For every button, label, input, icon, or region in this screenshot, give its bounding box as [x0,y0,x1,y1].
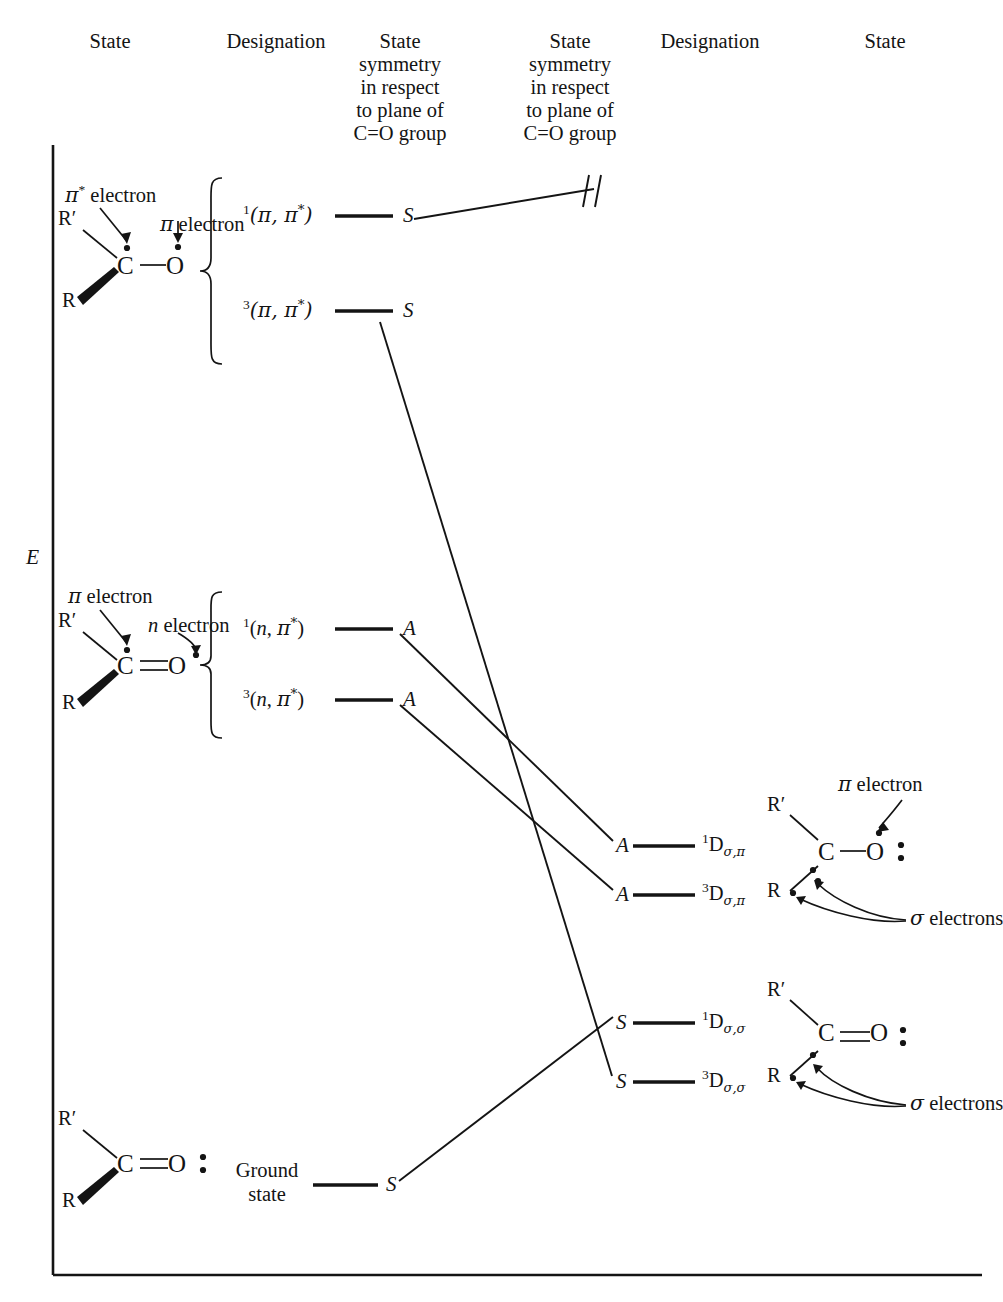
ground-state-line-2: state [228,1182,306,1206]
symmetry-label-d-sigma-sigma-triplet: S [616,1069,627,1094]
multiplicity: 3 [702,1067,709,1082]
bond-rprime-c [83,632,117,660]
structure-d-sigma-sigma-graphics [790,1000,906,1106]
bond-rprime-c [790,815,818,840]
orbital-term: (π, π*) [250,203,313,227]
bond-rprime-c [83,1130,117,1158]
multiplicity: 3 [702,880,709,895]
structure-d-sigma-pi-graphics [790,800,906,921]
multiplicity: 1 [243,615,250,630]
pistar-symbol: π* [277,616,297,640]
structure-label-r: R [767,880,781,901]
electron-dot-pistar [124,245,130,251]
designation-subscript: σ,π [724,844,746,859]
structure-atom-o: O [166,252,184,280]
ground-state-line-1: Ground [228,1158,306,1182]
multiplicity: 1 [702,1008,709,1023]
structure-atom-o: O [168,652,186,680]
bond-r-c-wedge [77,669,119,707]
pi-symbol: π [65,183,78,207]
structure-atom-c: C [117,652,134,680]
multiplicity: 3 [243,686,250,701]
sigma-electron-dot-r [790,890,796,896]
sigma-electron-dot-c [810,1052,816,1058]
level-label-pipi-triplet: 3(π, π*) [243,296,312,322]
designation-label-d-sigma-pi-singlet: 1Dσ,π [702,831,745,859]
structure-label-rprime: R′ [58,610,76,631]
annotation-pistar-electron: π* electron [65,182,156,207]
pi-symbol: π [68,584,81,608]
annotation-pi-electron: π electron [68,584,153,608]
sigma-symbol: σ [910,1091,924,1115]
structure-label-rprime: R′ [767,794,785,815]
annotation-arrow-sigma-1 [817,1068,906,1105]
structure-atom-o: O [866,838,884,866]
designation-label-d-sigma-pi-triplet: 3Dσ,π [702,880,745,908]
pi-symbol: π [160,212,173,236]
structure-atom-o: O [870,1019,888,1047]
symmetry-label-npi-triplet: A [403,687,416,712]
barrier-slash-2-icon [595,175,601,207]
brace-icon [196,176,236,366]
structure-ground-graphics [77,1130,206,1205]
structure-label-rprime: R′ [58,208,76,229]
lone-pair-dot-lower [200,1167,206,1173]
structure-label-rprime: R′ [767,979,785,1000]
designation-label-d-sigma-sigma-singlet: 1Dσ,σ [702,1008,745,1036]
orbital-term: (π, π*) [250,298,313,322]
designation-letter: D [709,833,724,855]
brace-pipi-group [196,176,236,366]
symmetry-label-ground-state: S [386,1172,397,1197]
sigma-electron-dot-c [810,867,816,873]
symmetry-label-d-sigma-sigma-singlet: S [616,1010,627,1035]
correlation-line-ground-to-dss-singlet [399,1017,613,1181]
structure-atom-c: C [117,1150,134,1178]
designation-letter: D [709,882,724,904]
lone-pair-dot-lower [898,855,904,861]
sigma-electron-dot-r [790,1075,796,1081]
bond-rprime-c [790,1000,818,1025]
lone-pair-dot-upper [200,1154,206,1160]
annotation-sigma-electrons: σ electrons [910,906,1003,930]
multiplicity: 3 [243,297,250,312]
designation-subscript: σ,σ [724,1021,746,1036]
structure-atom-o: O [168,1150,186,1178]
annotation-arrow-sigma-1 [818,884,906,920]
designation-label-d-sigma-sigma-triplet: 3Dσ,σ [702,1067,745,1095]
structure-atom-c: C [117,252,134,280]
lone-pair-dot-upper [898,842,904,848]
annotation-arrowhead-pistar [121,232,131,244]
correlation-line-npi-singlet-to-dsp-singlet [400,634,613,841]
structure-label-r: R [767,1065,781,1086]
annotation-sigma-electrons: σ electrons [910,1091,1003,1115]
bond-rprime-c [83,230,117,258]
symmetry-label-npi-singlet: A [403,616,416,641]
annotation-pi-electron: π electron [838,772,923,796]
designation-subscript: σ,π [724,893,746,908]
symmetry-label-pipi-singlet: S [403,203,414,228]
structure-atom-c: C [818,1019,835,1047]
designation-subscript: σ,σ [724,1080,746,1095]
structure-label-rprime: R′ [58,1108,76,1129]
n-symbol: n [257,688,267,710]
bond-r-c-wedge [77,267,119,305]
level-label-pipi-singlet: 1(π, π*) [243,201,312,227]
n-symbol: n [257,617,267,639]
annotation-arrowhead-pi [121,634,131,646]
brace-npi-group [196,590,236,740]
structure-label-r: R [62,1190,76,1211]
energy-axis-label: E [26,545,39,570]
correlation-line-pipi-singlet [414,189,594,219]
multiplicity: 1 [702,831,709,846]
pi-symbol: π [838,772,851,796]
multiplicity: 1 [243,202,250,217]
structure-label-r: R [62,290,76,311]
level-label-ground-state: Ground state [228,1158,306,1206]
structure-label-r: R [62,692,76,713]
level-label-npi-singlet: 1(n, π*) [243,614,304,640]
bond-r-c-wedge [77,1167,119,1205]
structure-atom-c: C [818,838,835,866]
sigma-symbol: σ [910,906,924,930]
star-symbol: * [78,182,85,197]
